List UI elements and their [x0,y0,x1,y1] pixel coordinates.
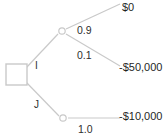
payoff-label-negative-10000: -$10,000 [119,111,162,122]
chance-node-lower[interactable] [60,115,66,121]
branch-label-j: J [34,100,39,110]
edge-branch-j [26,82,59,116]
edge-prob-01 [66,34,120,66]
decision-node-square[interactable] [6,64,27,85]
probability-label-0-1: 0.1 [77,50,92,61]
probability-label-1-0: 1.0 [78,124,93,135]
chance-node-upper[interactable] [59,28,65,34]
branch-label-i: I [35,61,38,71]
probability-label-0-9: 0.9 [77,25,92,36]
edge-prob-09 [66,4,120,29]
payoff-label-negative-50000: -$50,000 [119,62,162,73]
edge-branch-i [26,34,58,68]
payoff-label-zero: $0 [122,2,134,13]
decision-tree-diagram: I J 0.9 0.1 1.0 $0 -$50,000 -$10,000 [0,0,167,138]
